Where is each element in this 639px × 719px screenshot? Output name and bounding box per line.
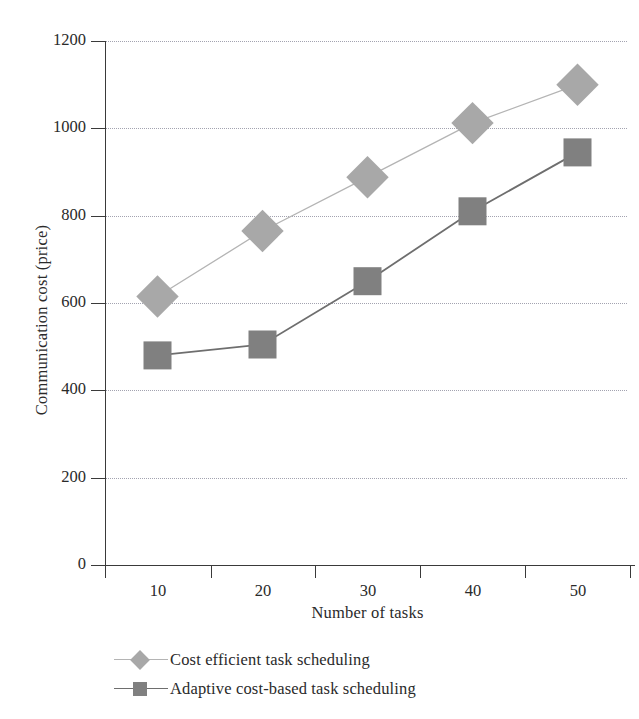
y-tick-label-0: 0	[0, 556, 86, 573]
y-tick-mark-1000	[91, 128, 105, 129]
x-axis-label: Number of tasks	[105, 603, 630, 623]
x-tick-mark-5	[630, 565, 631, 578]
x-tick-label-20: 20	[233, 583, 293, 600]
x-tick-label-40: 40	[443, 583, 503, 600]
gridline-600	[105, 303, 627, 304]
legend-label-cost-efficient: Cost efficient task scheduling	[170, 650, 370, 670]
legend-item-cost-efficient[interactable]: Cost efficient task scheduling	[112, 645, 542, 674]
y-tick-mark-1200	[91, 41, 105, 42]
y-tick-label-800: 800	[0, 207, 86, 224]
y-tick-mark-200	[91, 478, 105, 479]
gridline-1200	[105, 41, 627, 42]
gridline-800	[105, 216, 627, 217]
y-tick-label-1000: 1000	[0, 119, 86, 136]
gridline-200	[105, 478, 627, 479]
y-tick-label-200: 200	[0, 469, 86, 486]
legend-key-diamond	[112, 649, 170, 671]
legend-key-square	[112, 678, 170, 700]
y-tick-mark-800	[91, 216, 105, 217]
x-tick-mark-3	[420, 565, 421, 578]
chart-legend: Cost efficient task scheduling Adaptive …	[112, 645, 542, 703]
x-tick-mark-0	[105, 565, 106, 578]
y-tick-label-1200: 1200	[0, 32, 86, 49]
plot-area	[105, 41, 627, 565]
x-tick-mark-1	[211, 565, 212, 578]
x-tick-mark-2	[315, 565, 316, 578]
x-tick-label-10: 10	[128, 583, 188, 600]
diamond-marker-icon	[130, 650, 150, 670]
x-tick-label-50: 50	[548, 583, 608, 600]
y-tick-mark-400	[91, 390, 105, 391]
chart-figure: Communication cost (price) Number of tas…	[0, 0, 639, 719]
x-tick-mark-4	[525, 565, 526, 578]
y-tick-label-400: 400	[0, 381, 86, 398]
legend-label-adaptive-cost-based: Adaptive cost-based task scheduling	[170, 679, 416, 699]
y-tick-label-600: 600	[0, 294, 86, 311]
legend-item-adaptive-cost-based[interactable]: Adaptive cost-based task scheduling	[112, 674, 542, 703]
gridline-1000	[105, 128, 627, 129]
gridline-400	[105, 390, 627, 391]
x-axis-line	[92, 565, 635, 566]
y-axis-line	[105, 41, 106, 565]
x-tick-label-30: 30	[338, 583, 398, 600]
y-tick-mark-600	[91, 303, 105, 304]
square-marker-icon	[133, 682, 147, 696]
y-tick-mark-0	[91, 565, 105, 566]
